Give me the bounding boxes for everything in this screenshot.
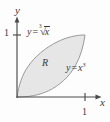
lower-curve-label: y=x3 bbox=[66, 62, 86, 73]
figure-container: y x 1 1 R y=3√x y=x3 bbox=[0, 0, 110, 122]
y-axis-label: y bbox=[15, 5, 20, 16]
upper-curve-operator: = bbox=[31, 26, 39, 37]
x-axis-tick-label-1: 1 bbox=[82, 107, 87, 117]
lower-curve-operator: = bbox=[70, 62, 78, 73]
diagram-canvas bbox=[0, 0, 110, 122]
y-axis-arrowhead bbox=[15, 17, 20, 23]
y-axis-tick-label-1: 1 bbox=[4, 28, 9, 38]
lower-curve-exponent: 3 bbox=[83, 61, 86, 68]
upper-curve-label: y=3√x bbox=[27, 26, 50, 37]
x-axis-label: x bbox=[100, 97, 105, 108]
cube-root-icon: 3√x bbox=[39, 26, 50, 37]
radicand: x bbox=[44, 26, 50, 37]
region-label-R: R bbox=[42, 58, 48, 68]
